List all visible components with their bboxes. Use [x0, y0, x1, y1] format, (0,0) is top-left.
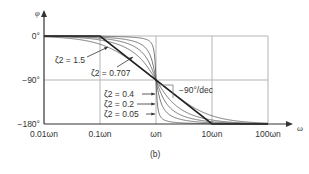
- bode-phase-chart: φ ω (b) ζ2 = 1.5 ζ2 = 0.707 ζ2 = 0.4 ζ2 …: [0, 0, 309, 174]
- annotation-zeta-1.5: ζ2 = 1.5: [55, 55, 85, 65]
- annotation-zeta-0.2: ζ2 = 0.2: [104, 99, 134, 109]
- x-tick-label: 0.1ωn: [88, 129, 111, 139]
- annotation-zeta-0.707: ζ2 = 0.707: [91, 68, 131, 78]
- leader-zeta-0.2-head: [151, 102, 155, 105]
- annotation-zeta-0.4: ζ2 = 0.4: [104, 89, 134, 99]
- x-axis-label: ω: [297, 123, 303, 133]
- y-tick-label: −90°: [22, 75, 40, 85]
- leader-zeta-0.05-head: [151, 112, 155, 115]
- x-tick-label: 0.01ωn: [30, 129, 58, 139]
- y-tick-label: 0°: [32, 31, 40, 41]
- axes: [41, 10, 293, 127]
- x-tick-label: ωn: [150, 129, 162, 139]
- annotation-slope: −90°/dec: [179, 85, 214, 95]
- y-axis-label: φ: [35, 8, 40, 18]
- x-tick-label: 10ωn: [202, 129, 223, 139]
- annotation-zeta-0.05: ζ2 = 0.05: [104, 109, 139, 119]
- y-axis-arrow: [41, 10, 47, 17]
- figure-caption: (b): [150, 149, 161, 159]
- x-axis-arrow: [286, 121, 293, 127]
- x-tick-label: 100ωn: [255, 129, 281, 139]
- y-tick-label: −180°: [17, 119, 40, 129]
- leader-zeta-0.4-head: [151, 92, 155, 95]
